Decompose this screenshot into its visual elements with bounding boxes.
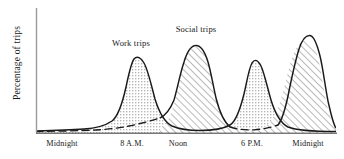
x-tick-label-noon: Noon: [169, 139, 188, 148]
x-tick-label-midnight-start: Midnight: [46, 139, 77, 148]
x-tick-label-midnight-end: Midnight: [292, 139, 323, 148]
annotation-work-trips: Work trips: [112, 38, 150, 48]
chart-figure: Percentage of trips Midnight 8 A.M. Noon…: [0, 0, 344, 159]
annotation-social-trips: Social trips: [176, 24, 217, 34]
x-tick-label-6pm: 6 P.M.: [241, 139, 263, 148]
trips-by-time-of-day-chart: [0, 0, 344, 159]
y-axis-label: Percentage of trips: [12, 0, 22, 128]
x-tick-label-8am: 8 A.M.: [120, 139, 144, 148]
